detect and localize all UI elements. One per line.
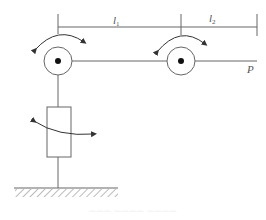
label-end-point-p: P (246, 63, 254, 75)
figure-caption: ——— ———— ———— (0, 207, 266, 215)
arm-links (58, 61, 257, 188)
robot-arm-diagram: l1 l2 P (0, 0, 266, 220)
shoulder-joint (35, 35, 84, 75)
joint-pivot-icon (55, 58, 61, 64)
joint-pivot-icon (178, 58, 184, 64)
elbow-joint (157, 36, 205, 75)
label-l2: l2 (209, 12, 216, 26)
waist-joint (34, 107, 94, 157)
ground-base (14, 188, 118, 197)
dimension-lines (58, 14, 257, 36)
label-l1: l1 (113, 14, 120, 28)
ground-hatch-icon (15, 189, 118, 197)
